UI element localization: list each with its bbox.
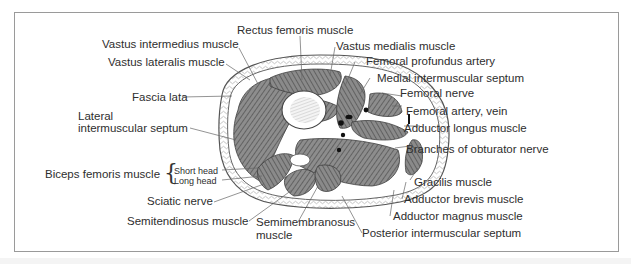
label-gracilis: Gracilis muscle	[414, 176, 492, 189]
femur-bone	[282, 91, 326, 129]
label-vastus-intermedius: Vastus intermedius muscle	[102, 38, 239, 51]
label-vastus-medialis: Vastus medialis muscle	[336, 40, 455, 53]
label-biceps-femoris: Biceps femoris muscle	[45, 168, 160, 181]
sciatic-nerve-shape	[290, 154, 310, 166]
label-rectus-femoris: Rectus femoris muscle	[237, 24, 353, 37]
label-adductor-magnus: Adductor magnus muscle	[393, 210, 523, 223]
label-medial-intermuscular-septum: Medial intermuscular septum	[377, 72, 524, 85]
label-fascia-lata: Fascia lata	[132, 91, 188, 104]
label-vastus-lateralis: Vastus lateralis muscle	[108, 56, 225, 69]
label-femoral-profundus-artery: Femoral profundus artery	[366, 55, 495, 68]
label-semitendinosus: Semitendinosus muscle	[127, 215, 248, 228]
label-obturator-nerve-branches: Branches of obturator nerve	[406, 143, 549, 156]
label-posterior-intermuscular-septum: Posterior intermuscular septum	[362, 227, 521, 240]
label-semimembranosus-line1: Semimembranosus	[256, 216, 355, 229]
label-adductor-brevis: Adductor brevis muscle	[404, 193, 524, 206]
label-biceps-short-head: Short head	[174, 166, 218, 176]
label-semimembranosus-line2: muscle	[256, 229, 292, 242]
label-biceps-long-head: Long head	[174, 176, 217, 186]
label-femoral-artery-vein: Femoral artery, vein	[406, 105, 507, 118]
label-sciatic-nerve: Sciatic nerve	[147, 195, 213, 208]
label-adductor-longus: Adductor longus muscle	[404, 122, 527, 135]
label-lateral-septum-line2: intermuscular septum	[78, 122, 188, 135]
label-femoral-nerve: Femoral nerve	[400, 87, 474, 100]
